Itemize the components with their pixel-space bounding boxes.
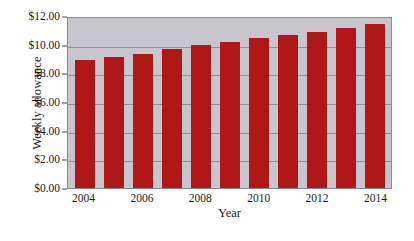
x-axis-tick-label: 2004 bbox=[72, 192, 95, 204]
bar bbox=[336, 28, 356, 188]
x-axis-tick-label: 2006 bbox=[130, 192, 153, 204]
bar bbox=[249, 38, 269, 188]
bar-series bbox=[68, 18, 391, 188]
y-axis-tick-label: $6.00 bbox=[34, 97, 60, 109]
x-axis-tick-label: 2012 bbox=[306, 192, 329, 204]
bar-chart-figure: Weekly allowance $0.00$2.00$4.00$6.00$8.… bbox=[0, 0, 414, 241]
bar bbox=[307, 32, 327, 188]
y-axis-tick-label: $0.00 bbox=[34, 183, 60, 195]
bar bbox=[133, 54, 153, 188]
y-axis-tick-labels: $0.00$2.00$4.00$6.00$8.00$10.00$12.00 bbox=[0, 0, 67, 241]
bar bbox=[104, 57, 124, 188]
bar bbox=[278, 35, 298, 188]
plot-area bbox=[67, 17, 392, 189]
y-axis-tick-label: $2.00 bbox=[34, 155, 60, 167]
bar bbox=[191, 45, 211, 188]
bar bbox=[75, 60, 95, 188]
y-axis-tick-label: $4.00 bbox=[34, 126, 60, 138]
y-axis-tick-label: $8.00 bbox=[34, 69, 60, 81]
bar bbox=[162, 49, 182, 188]
x-axis-tick-label: 2008 bbox=[189, 192, 212, 204]
y-axis-tick-label: $10.00 bbox=[28, 40, 60, 52]
bar bbox=[220, 42, 240, 188]
x-axis-tick-label: 2010 bbox=[247, 192, 270, 204]
x-axis-tick-label: 2014 bbox=[364, 192, 387, 204]
bar bbox=[365, 24, 385, 188]
y-axis-tick-label: $12.00 bbox=[28, 11, 60, 23]
x-axis-title: Year bbox=[67, 206, 392, 221]
